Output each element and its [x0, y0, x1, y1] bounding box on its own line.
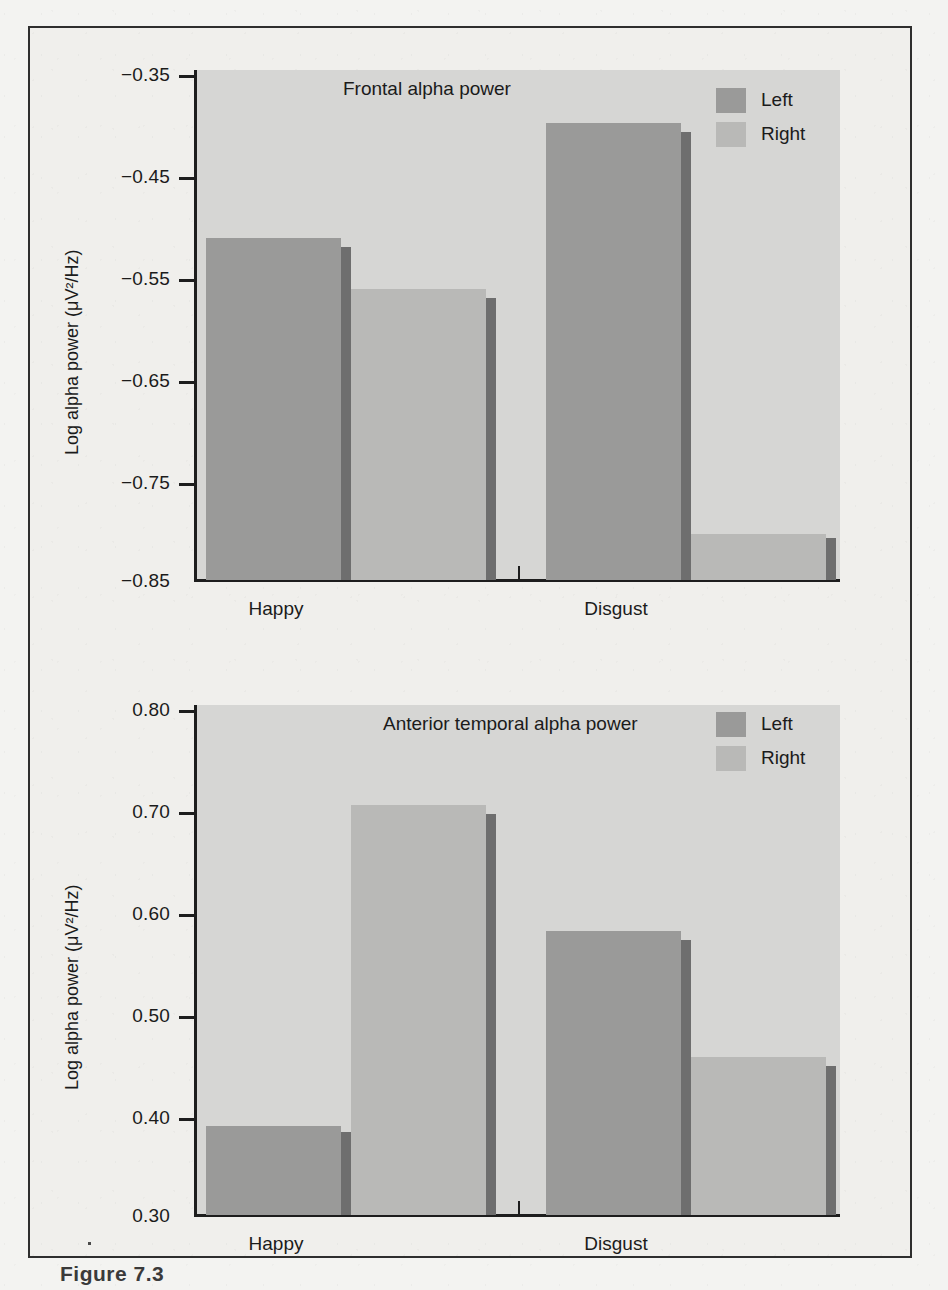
bar-face — [206, 1126, 341, 1215]
y-tick-label-frontal-1: −0.45 — [78, 166, 170, 188]
y-tick-label-frontal-4: −0.75 — [78, 472, 170, 494]
y-axis-title-anterior-temporal: Log alpha power (μV²/Hz) — [62, 885, 83, 1090]
y-axis-line-anterior-temporal — [194, 705, 197, 1217]
figure-page: −0.35 −0.45 −0.55 −0.65 −0.75 −0.85 Log … — [0, 0, 948, 1290]
bar-frontal-happy-left[interactable] — [206, 238, 341, 580]
bar-frontal-disgust-left[interactable] — [546, 123, 681, 580]
y-tick-frontal-4 — [179, 483, 197, 486]
bar-shadow — [681, 940, 691, 1215]
y-tick-label-frontal-3: −0.65 — [78, 370, 170, 392]
y-tick-temporal-3 — [179, 1016, 197, 1019]
y-tick-label-temporal-0: 0.80 — [78, 699, 170, 721]
y-tick-frontal-2 — [179, 279, 197, 282]
y-tick-temporal-0 — [179, 710, 197, 713]
bar-temporal-disgust-left[interactable] — [546, 931, 681, 1215]
x-category-label-happy-temporal: Happy — [206, 1233, 346, 1255]
bar-temporal-disgust-right[interactable] — [691, 1057, 826, 1215]
x-category-label-disgust-temporal: Disgust — [536, 1233, 696, 1255]
chart-panel-frontal: −0.35 −0.45 −0.55 −0.65 −0.75 −0.85 Log … — [0, 0, 948, 640]
bar-shadow — [826, 1066, 836, 1215]
y-tick-frontal-1 — [179, 177, 197, 180]
y-tick-temporal-1 — [179, 812, 197, 815]
x-category-label-happy-frontal: Happy — [206, 598, 346, 620]
bar-face — [546, 931, 681, 1215]
bar-shadow — [341, 247, 351, 580]
x-axis-mid-tick-temporal — [518, 1201, 520, 1215]
legend-label-left: Left — [761, 89, 793, 111]
legend-label-right: Right — [761, 747, 805, 769]
y-tick-label-frontal-0: −0.35 — [78, 64, 170, 86]
bar-shadow — [681, 132, 691, 580]
stray-ink-mark — [88, 1242, 91, 1245]
bar-face — [206, 238, 341, 580]
legend-swatch-left-icon — [716, 712, 746, 737]
bar-face — [691, 534, 826, 580]
chart-title-frontal: Frontal alpha power — [343, 78, 511, 100]
bar-temporal-happy-left[interactable] — [206, 1126, 341, 1215]
y-axis-line-frontal — [194, 70, 197, 582]
figure-caption: Figure 7.3 — [60, 1262, 164, 1286]
legend-swatch-left-icon — [716, 88, 746, 113]
chart-panel-anterior-temporal: 0.80 0.70 0.60 0.50 0.40 0.30 Log alpha … — [0, 630, 948, 1290]
bar-face — [351, 805, 486, 1215]
y-axis-title-frontal: Log alpha power (μV²/Hz) — [62, 250, 83, 455]
bar-frontal-disgust-right[interactable] — [691, 534, 826, 580]
bar-face — [351, 289, 486, 580]
x-axis-mid-tick-frontal — [518, 566, 520, 580]
figure-caption-strip: Figure 7.3 — [30, 1260, 914, 1290]
y-tick-label-temporal-3: 0.50 — [78, 1005, 170, 1027]
bar-shadow — [341, 1132, 351, 1215]
bar-shadow — [826, 538, 836, 580]
bar-temporal-happy-right[interactable] — [351, 805, 486, 1215]
bar-shadow — [486, 814, 496, 1215]
bar-frontal-happy-right[interactable] — [351, 289, 486, 580]
y-tick-temporal-2 — [179, 914, 197, 917]
legend-swatch-right-icon — [716, 122, 746, 147]
y-tick-label-temporal-4: 0.40 — [78, 1107, 170, 1129]
legend-label-right: Right — [761, 123, 805, 145]
y-tick-frontal-3 — [179, 381, 197, 384]
chart-title-anterior-temporal: Anterior temporal alpha power — [383, 713, 638, 735]
y-tick-label-frontal-5: −0.85 — [78, 570, 170, 592]
y-tick-frontal-0 — [179, 75, 197, 78]
y-tick-label-frontal-2: −0.55 — [78, 268, 170, 290]
y-tick-temporal-4 — [179, 1118, 197, 1121]
x-category-label-disgust-frontal: Disgust — [536, 598, 696, 620]
bar-face — [546, 123, 681, 580]
y-tick-label-temporal-5: 0.30 — [78, 1205, 170, 1227]
y-tick-label-temporal-1: 0.70 — [78, 801, 170, 823]
y-tick-label-temporal-2: 0.60 — [78, 903, 170, 925]
legend-swatch-right-icon — [716, 746, 746, 771]
bar-face — [691, 1057, 826, 1215]
bar-shadow — [486, 298, 496, 580]
legend-label-left: Left — [761, 713, 793, 735]
